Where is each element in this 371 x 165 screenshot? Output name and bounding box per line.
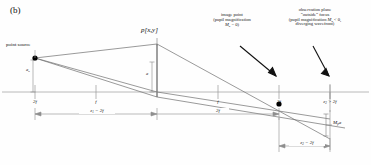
ray-lower-refracted [157,92,330,119]
ray-upper-refracted [157,44,330,139]
dimension-label-2f: 2f [207,108,229,113]
annotation-arrows [240,46,329,76]
aperture-height-marker [150,62,155,92]
annotation-observation-line4: diverging wavefront) [263,22,367,27]
field-point-label: p[x,y] [141,27,158,34]
ray-bundle [35,44,345,139]
source-height-label: a0 [26,68,30,74]
tick-label-f-right: f [213,99,223,104]
tick-label-2f-left: 2f [29,99,41,104]
dimension-label-z1: z1 = 2f [79,108,115,114]
point-source-label: point source [6,42,31,47]
figure-panel: (b) point source p[x,y] a0 a image point… [0,0,371,165]
panel-letter: (b) [10,6,21,15]
tick-label-2f-right: 2f [273,99,285,104]
aperture-height-label: a [146,72,148,77]
ray-upper-incident [35,44,157,58]
dimension-label-z2: z2 − 2f [289,140,325,146]
pupil-mag-height-label: Mpa [333,120,341,126]
annotation-observation-plane: observation plane “outside” focus (pupil… [263,8,367,27]
tick-label-f-left: f [91,99,101,104]
tick-label-observation: z2 > 2f [313,99,347,105]
